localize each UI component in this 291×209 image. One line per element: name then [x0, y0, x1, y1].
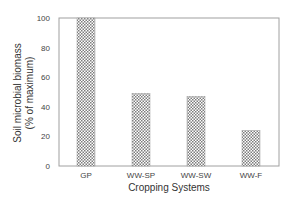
y-tick-label: 40	[41, 103, 50, 112]
x-tick-label: GP	[80, 171, 92, 180]
y-tick-label: 100	[37, 14, 51, 23]
y-tick-label: 0	[46, 162, 51, 171]
y-tick-label: 60	[41, 73, 50, 82]
bar-ww-f	[242, 130, 260, 166]
x-tick-label: WW-SW	[181, 171, 212, 180]
bar-ww-sp	[132, 93, 150, 166]
bar-ww-sw	[187, 96, 205, 166]
y-tick-label: 80	[41, 44, 50, 53]
bar-chart: 020406080100 GPWW-SPWW-SWWW-F Cropping S…	[0, 0, 291, 209]
x-tick-label: WW-SP	[127, 171, 155, 180]
y-axis-label-line1: Soil microbial biomass	[12, 43, 23, 142]
bar-gp	[77, 18, 95, 166]
y-tick-label: 20	[41, 132, 50, 141]
x-tick-label: WW-F	[240, 171, 263, 180]
x-axis-label: Cropping Systems	[128, 182, 210, 193]
y-axis-label-line2: (% of maximum)	[24, 57, 35, 130]
